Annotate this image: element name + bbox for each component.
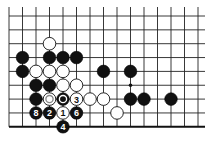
- white-stone-icon: [43, 37, 56, 50]
- black-stone-icon: [16, 65, 29, 78]
- black-stone: [165, 93, 178, 106]
- white-stone: [84, 93, 97, 106]
- white-stone: [70, 79, 83, 92]
- black-stone-4: 4: [57, 121, 70, 134]
- black-stone: [30, 93, 43, 106]
- black-stone-icon: [124, 93, 137, 106]
- black-stone: [57, 51, 70, 64]
- white-stone-icon: [70, 79, 83, 92]
- black-stone: [30, 79, 43, 92]
- white-stone: [30, 65, 43, 78]
- black-stone: [43, 51, 56, 64]
- white-stone-icon: [43, 93, 56, 106]
- black-stone-icon: [43, 51, 56, 64]
- black-stone: [70, 51, 83, 64]
- black-stone-icon: [30, 93, 43, 106]
- black-stone-icon: [70, 51, 83, 64]
- white-stone: [43, 37, 56, 50]
- white-stone: [97, 93, 110, 106]
- black-stone-icon: [16, 51, 29, 64]
- black-stone-icon: [165, 93, 178, 106]
- white-stone: [57, 79, 70, 92]
- white-stone: [43, 65, 56, 78]
- go-board: 382164: [0, 0, 209, 146]
- black-stone-2: 2: [43, 107, 56, 120]
- black-stone: [138, 93, 151, 106]
- black-stone: [16, 51, 29, 64]
- black-stone: [43, 79, 56, 92]
- black-stone-icon: [124, 65, 137, 78]
- black-stone-icon: [43, 79, 56, 92]
- black-stone-icon: [57, 51, 70, 64]
- white-stone-icon: [57, 65, 70, 78]
- white-stone-icon: [111, 107, 124, 120]
- black-stone: [16, 65, 29, 78]
- black-stone-icon: [97, 65, 110, 78]
- move-number: 2: [47, 108, 52, 118]
- black-stone-8: 8: [30, 107, 43, 120]
- black-stone: [124, 93, 137, 106]
- white-stone-icon: [97, 93, 110, 106]
- star-points: [129, 83, 133, 87]
- white-stone: [57, 65, 70, 78]
- move-number: 4: [60, 122, 65, 132]
- white-stone-icon: [30, 65, 43, 78]
- move-number: 8: [33, 108, 38, 118]
- move-number: 1: [60, 108, 65, 118]
- white-stone-icon: [43, 65, 56, 78]
- star-point: [129, 83, 133, 87]
- white-stone: [111, 107, 124, 120]
- move-number: 6: [74, 108, 79, 118]
- black-stone: [57, 93, 70, 106]
- black-stone: [124, 65, 137, 78]
- black-stone-icon: [57, 93, 70, 106]
- black-stone-icon: [138, 93, 151, 106]
- black-stone-icon: [30, 79, 43, 92]
- white-stone-3: 3: [70, 93, 83, 106]
- move-number: 3: [74, 95, 79, 105]
- white-stone-icon: [84, 93, 97, 106]
- white-stone-icon: [57, 79, 70, 92]
- black-stone: [97, 65, 110, 78]
- white-stone: [43, 93, 56, 106]
- white-stone-1: 1: [57, 107, 70, 120]
- black-stone-6: 6: [70, 107, 83, 120]
